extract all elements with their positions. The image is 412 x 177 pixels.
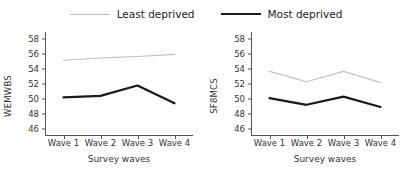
- y-axis-label-wemwbs: WEMWBS: [1, 56, 15, 136]
- series-line-least-deprived: [270, 71, 381, 82]
- series-svg-left: [45, 32, 193, 136]
- legend-item-most-deprived: Most deprived: [221, 9, 343, 20]
- series-svg-right: [251, 32, 399, 136]
- figure-root: Least deprived Most deprived WEMWBS 4648…: [0, 0, 412, 177]
- legend-line-swatch-least-deprived: [70, 14, 110, 15]
- legend-item-least-deprived: Least deprived: [70, 9, 195, 20]
- x-tick-label: Wave 4: [159, 139, 190, 148]
- y-axis-label-text: SF8MCS: [209, 78, 219, 114]
- panel-wemwbs: WEMWBS 46485052545658 Wave 1Wave 2Wave 3…: [0, 26, 206, 177]
- y-tick-label: 58: [28, 35, 39, 44]
- y-tick-label: 48: [28, 109, 39, 118]
- x-tick-label: Wave 1: [48, 139, 79, 148]
- series-line-most-deprived: [270, 97, 381, 107]
- y-tick-label: 52: [234, 80, 245, 89]
- y-tick-label: 48: [234, 109, 245, 118]
- series-line-most-deprived: [64, 85, 175, 103]
- x-axis-label-left: Survey waves: [45, 154, 193, 164]
- y-tick-label: 56: [234, 50, 245, 59]
- x-axis-ticks-right: Wave 1Wave 2Wave 3Wave 4: [251, 139, 399, 151]
- plot-area-wemwbs: [45, 32, 193, 136]
- legend-label-least-deprived: Least deprived: [117, 9, 195, 20]
- y-tick-label: 50: [234, 95, 245, 104]
- x-axis-ticks-left: Wave 1Wave 2Wave 3Wave 4: [45, 139, 193, 151]
- x-tick-label: Wave 3: [122, 139, 153, 148]
- y-tick-label: 54: [234, 65, 245, 74]
- x-tick-label: Wave 3: [328, 139, 359, 148]
- chart-legend: Least deprived Most deprived: [0, 4, 412, 24]
- panel-sf8mcs: SF8MCS 46485052545658 Wave 1Wave 2Wave 3…: [206, 26, 412, 177]
- y-tick-label: 54: [28, 65, 39, 74]
- y-tick-label: 56: [28, 50, 39, 59]
- y-axis-label-text: WEMWBS: [3, 75, 13, 117]
- y-tick-label: 50: [28, 95, 39, 104]
- y-tick-label: 46: [234, 124, 245, 133]
- series-line-least-deprived: [64, 54, 175, 60]
- y-tick-label: 46: [28, 124, 39, 133]
- y-tick-label: 58: [234, 35, 245, 44]
- x-axis-label-right: Survey waves: [251, 154, 399, 164]
- y-axis-ticks-right: 46485052545658: [222, 32, 248, 136]
- y-axis-ticks-left: 46485052545658: [16, 32, 42, 136]
- x-tick-label: Wave 4: [365, 139, 396, 148]
- x-tick-label: Wave 1: [254, 139, 285, 148]
- plot-area-sf8mcs: [251, 32, 399, 136]
- y-axis-label-sf8mcs: SF8MCS: [207, 56, 221, 136]
- x-tick-label: Wave 2: [291, 139, 322, 148]
- x-tick-label: Wave 2: [85, 139, 116, 148]
- legend-line-swatch-most-deprived: [221, 13, 261, 15]
- legend-label-most-deprived: Most deprived: [268, 9, 343, 20]
- y-tick-label: 52: [28, 80, 39, 89]
